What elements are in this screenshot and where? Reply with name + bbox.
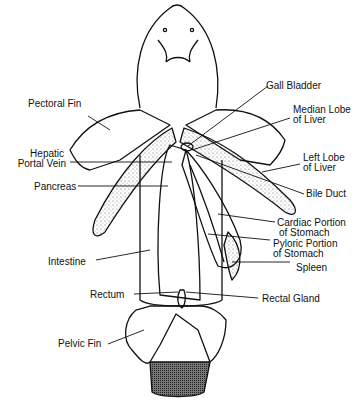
label-left-lobe-2: of Liver: [303, 162, 336, 173]
label-rectal-gland: Rectal Gland: [262, 293, 320, 304]
label-median-lobe-2: of Liver: [293, 114, 326, 125]
label-bile-duct: Bile Duct: [306, 188, 346, 199]
label-intestine: Intestine: [48, 256, 86, 267]
intestine: [158, 145, 200, 300]
rectal-gland: [178, 290, 185, 308]
label-cardiac-2: of Stomach: [279, 227, 330, 238]
label-gall-bladder: Gall Bladder: [266, 80, 321, 91]
head-outline: [137, 5, 218, 108]
label-hepatic-portal-vein-2: Portal Vein: [10, 158, 66, 169]
label-pelvic-fin: Pelvic Fin: [58, 338, 101, 349]
body-trunk: [140, 155, 222, 306]
anatomy-drawing: [0, 0, 356, 401]
label-pyloric-2: of Stomach: [273, 248, 324, 259]
liver-lobe-left: [180, 128, 295, 214]
tail-stub: [150, 362, 210, 397]
shark-anatomy-diagram: Pectoral Fin Hepatic Portal Vein Pancrea…: [0, 0, 356, 401]
label-pancreas: Pancreas: [34, 181, 76, 192]
label-pectoral-fin: Pectoral Fin: [28, 98, 81, 109]
pelvic-fins: [126, 306, 226, 363]
liver-lobe-right: [93, 128, 176, 236]
spleen: [224, 232, 240, 280]
label-spleen: Spleen: [296, 262, 327, 273]
label-rectum: Rectum: [90, 289, 124, 300]
